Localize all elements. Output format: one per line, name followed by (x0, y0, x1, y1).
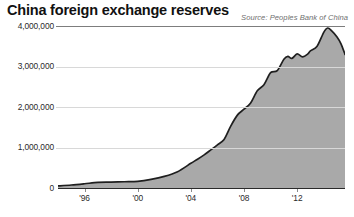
gridline-2000000 (58, 107, 345, 108)
x-tick-label: '12 (292, 193, 303, 203)
x-tick-label: '00 (132, 193, 143, 203)
chart-card: China foreign exchange reserves Source: … (0, 0, 354, 217)
gridline-3000000 (58, 67, 345, 68)
x-tick-label: '08 (239, 193, 250, 203)
plot-area (58, 26, 345, 188)
gridline-1000000 (58, 148, 345, 149)
area-fill-path (58, 28, 345, 188)
gridline-4000000 (58, 26, 345, 27)
gridline-0 (58, 188, 345, 189)
x-tick-label: '04 (186, 193, 197, 203)
x-tick-label: '96 (79, 193, 90, 203)
